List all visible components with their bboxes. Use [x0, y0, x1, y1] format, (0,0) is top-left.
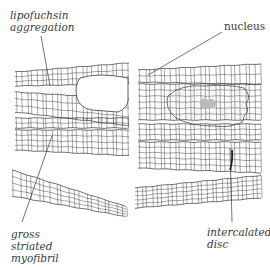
label-line: striated — [11, 240, 59, 252]
label-gross-striated-myofibril: gross striated myofibril — [11, 228, 59, 264]
label-line: nucleus — [224, 20, 265, 32]
nucleus-leader — [148, 32, 222, 75]
label-line: gross — [11, 228, 59, 240]
label-line: myofibril — [11, 252, 59, 264]
label-lipofuchsin-aggregation: lipofuchsin aggregation — [10, 9, 75, 33]
label-line: aggregation — [10, 21, 75, 33]
lipofuchsin-leader — [41, 36, 50, 86]
label-line: disc — [207, 238, 270, 250]
cardiac-muscle-diagram: lipofuchsin aggregation nucleus gross st… — [0, 0, 270, 268]
label-line: lipofuchsin — [10, 9, 75, 21]
label-intercalated-disc: intercalated disc — [207, 226, 270, 250]
label-line: intercalated — [207, 226, 270, 238]
label-nucleus: nucleus — [224, 20, 265, 32]
